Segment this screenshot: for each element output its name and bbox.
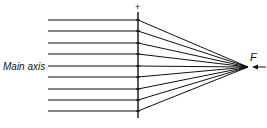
refracted-ray xyxy=(138,67,248,89)
refracted-ray xyxy=(138,31,248,67)
refracted-ray xyxy=(138,67,248,111)
refracted-ray xyxy=(138,43,248,67)
refracted-ray xyxy=(138,54,248,67)
lens-sign-label: + xyxy=(135,2,140,12)
refracted-ray xyxy=(138,66,248,67)
main-axis-label: Main axis xyxy=(3,61,45,72)
focal-point-label: F xyxy=(250,51,257,63)
lens-diagram: + Main axis F xyxy=(0,0,267,128)
refracted-ray xyxy=(138,20,248,67)
arrowhead-icon xyxy=(252,65,258,70)
